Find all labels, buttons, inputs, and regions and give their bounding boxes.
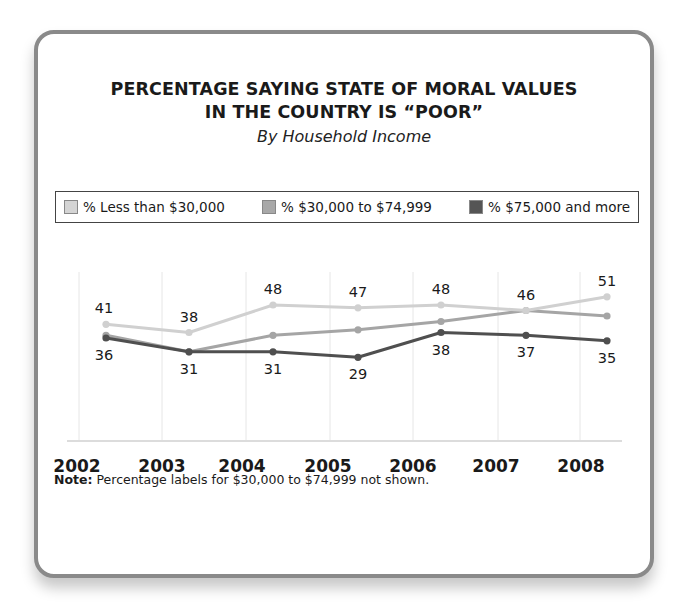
data-point <box>354 354 361 361</box>
data-label-low-income: 48 <box>432 281 450 297</box>
data-point <box>269 348 276 355</box>
x-tick-label: 2007 <box>472 456 519 476</box>
data-label-low-income: 47 <box>349 284 367 300</box>
data-point <box>354 326 361 333</box>
data-label-high-income: 38 <box>432 342 450 358</box>
data-label-low-income: 38 <box>180 309 198 325</box>
line-chart-plot: 2002200320042005200620072008413848474846… <box>0 0 686 615</box>
data-point <box>102 321 109 328</box>
data-point <box>437 301 444 308</box>
data-point <box>269 301 276 308</box>
data-label-high-income: 31 <box>180 361 198 377</box>
chart-note: Note: Percentage labels for $30,000 to $… <box>54 472 429 487</box>
data-label-high-income: 36 <box>95 347 113 363</box>
data-point <box>185 329 192 336</box>
data-point <box>603 337 610 344</box>
data-label-high-income: 37 <box>517 344 535 360</box>
data-point <box>437 318 444 325</box>
data-label-low-income: 48 <box>264 281 282 297</box>
data-label-high-income: 31 <box>264 361 282 377</box>
note-text: Percentage labels for $30,000 to $74,999… <box>93 472 430 487</box>
data-point <box>437 329 444 336</box>
data-label-low-income: 41 <box>95 300 113 316</box>
note-label: Note: <box>54 472 93 487</box>
data-point <box>185 348 192 355</box>
data-label-high-income: 29 <box>349 366 367 382</box>
chart-card: PERCENTAGE SAYING STATE OF MORAL VALUES … <box>34 30 654 578</box>
data-label-high-income: 35 <box>598 350 616 366</box>
data-point <box>603 293 610 300</box>
data-label-low-income: 51 <box>598 273 616 289</box>
data-point <box>269 332 276 339</box>
data-point <box>102 334 109 341</box>
data-point <box>522 332 529 339</box>
x-tick-label: 2008 <box>557 456 604 476</box>
data-label-low-income: 46 <box>517 287 535 303</box>
data-point <box>522 307 529 314</box>
data-point <box>354 304 361 311</box>
data-point <box>603 312 610 319</box>
